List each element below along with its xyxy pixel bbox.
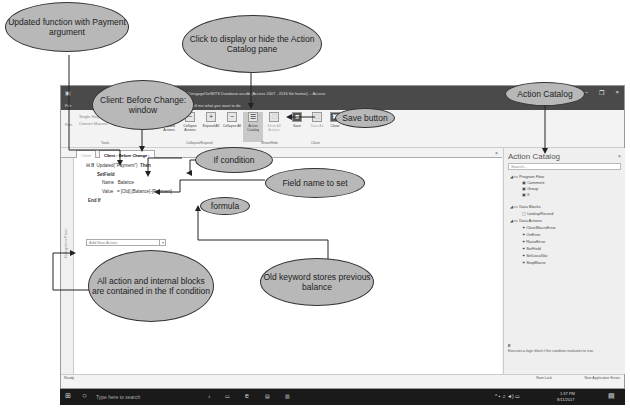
save-as-button[interactable]: □Save As bbox=[307, 112, 327, 128]
catalog-item-if[interactable]: ▣ If bbox=[522, 192, 529, 197]
callout-old-keyword: Old keyword stores previous balance bbox=[260, 258, 374, 306]
setfield-action[interactable]: SetField bbox=[97, 172, 115, 177]
catalog-item-group[interactable]: ▣ Group bbox=[522, 186, 538, 191]
catalog-description: Executes a logic block if the condition … bbox=[508, 349, 618, 354]
catalog-item-raiseerror[interactable]: ✦ RaiseError bbox=[522, 239, 545, 244]
minimize-button[interactable]: – bbox=[585, 89, 588, 95]
action-catalog-pane: Action Catalog × Search... ◢ ▭ Program F… bbox=[503, 148, 625, 374]
callout-field-name: Field name to set bbox=[265, 168, 365, 198]
close-tab-icon[interactable]: × bbox=[495, 150, 498, 156]
catalog-item-comment[interactable]: ▣ Comment bbox=[522, 180, 544, 185]
navigation-pane[interactable]: Navigation Pane bbox=[61, 158, 74, 374]
access-window: ▣ BITS Database : Database- C:\Cengage\5… bbox=[60, 85, 625, 389]
convert-macros-button[interactable]: Convert Macros bbox=[79, 121, 107, 126]
group-show-hide: Show/Hide bbox=[261, 141, 278, 145]
catalog-item-lookuprecord[interactable]: ▢ LookupRecord bbox=[522, 211, 553, 216]
value-argument: Value = [Old].[Balance]-[Payment] bbox=[102, 189, 172, 194]
file-explorer-icon[interactable]: ▤ bbox=[265, 393, 270, 399]
collapse-all-icon: − bbox=[227, 112, 237, 122]
name-value[interactable]: Balance bbox=[118, 180, 134, 185]
catalog-item-setlocalvar[interactable]: ✦ SetLocalVar bbox=[522, 253, 548, 258]
name-argument: Name Balance bbox=[102, 180, 134, 185]
callout-action-catalog: Action Catalog bbox=[505, 82, 585, 106]
task-view-icon[interactable]: ▭ bbox=[225, 393, 230, 399]
restore-button[interactable]: ❐ bbox=[599, 89, 604, 96]
notifications-icon[interactable]: ▤ bbox=[608, 392, 615, 400]
callout-formula: formula bbox=[200, 197, 250, 215]
collapse-all-button[interactable]: −Collapse All bbox=[222, 112, 242, 128]
save-as-icon: □ bbox=[312, 112, 322, 122]
add-new-action-dropdown[interactable]: Add New Action▾ bbox=[86, 239, 166, 246]
save-icon: ■ bbox=[292, 112, 302, 122]
tab-client-before-change[interactable]: Client : Before Change : bbox=[99, 150, 155, 158]
show-all-icon: □ bbox=[269, 112, 279, 122]
catalog-item-onerror[interactable]: ✦ OnError bbox=[522, 232, 540, 237]
file-tab[interactable]: File bbox=[65, 103, 71, 108]
status-bar: Ready Num Lock New Application Errors bbox=[61, 374, 624, 381]
close-window-button[interactable]: × bbox=[615, 89, 619, 95]
group-collapse-expand: Collapse/Expand bbox=[186, 141, 212, 145]
group-close: Close bbox=[311, 141, 320, 145]
section-data-blocks[interactable]: ◢ ▭ Data Blocks bbox=[510, 204, 541, 209]
callout-action-catalog-toggle: Click to display or hide the Action Cata… bbox=[182, 15, 322, 73]
status-app-errors[interactable]: New Application Errors bbox=[585, 376, 620, 380]
if-block-header[interactable]: ⊟ If Updated("Payment") Then bbox=[86, 163, 151, 168]
tell-me-box[interactable]: Tell me what you want to do bbox=[191, 103, 240, 108]
end-if: End If bbox=[88, 198, 101, 203]
start-icon[interactable]: ⊞ bbox=[65, 392, 71, 400]
catalog-item-clearmacroerror[interactable]: ✦ ClearMacroError bbox=[522, 225, 556, 230]
save-button[interactable]: ■Save bbox=[287, 112, 307, 128]
mic-icon[interactable]: ♪ bbox=[208, 393, 211, 399]
callout-all-contained: All action and internal blocks are conta… bbox=[88, 250, 214, 322]
catalog-search-input[interactable]: Search... bbox=[508, 163, 621, 170]
status-ready: Ready bbox=[64, 376, 74, 380]
show-all-actions-button[interactable]: □Show All Actions bbox=[264, 112, 284, 132]
value-formula[interactable]: = [Old].[Balance]-[Payment] bbox=[117, 189, 172, 194]
tab-client[interactable]: Client bbox=[76, 150, 96, 158]
callout-save-button: Save button bbox=[335, 108, 395, 128]
edge-icon[interactable]: e bbox=[245, 392, 249, 399]
system-tray-icons[interactable]: ^ ▪ ♫ ◄) ▭ bbox=[495, 393, 520, 399]
dropdown-arrow-icon[interactable]: ▾ bbox=[159, 240, 165, 245]
close-catalog-icon[interactable]: × bbox=[618, 153, 621, 159]
catalog-item-stopmacro[interactable]: ✦ StopMacro bbox=[522, 260, 545, 265]
section-data-actions[interactable]: ◢ ▭ Data Actions bbox=[510, 218, 542, 223]
catalog-item-setfield[interactable]: ✦ SetField bbox=[522, 246, 541, 251]
save-quick-icon[interactable]: ▣ bbox=[65, 89, 71, 96]
expand-all-icon: + bbox=[206, 112, 216, 122]
catalog-title: Action Catalog bbox=[508, 152, 560, 161]
access-taskbar-icon[interactable]: ▥ bbox=[285, 393, 290, 399]
taskbar: ⊞ ○ Type here to search ♪ ▭ e ▤ ▥ ^ ▪ ♫ … bbox=[60, 389, 625, 405]
document-tabs: Client Client : Before Change : × bbox=[61, 148, 502, 158]
action-catalog-button[interactable]: ☰Action Catalog bbox=[243, 112, 263, 142]
clock-time[interactable]: 1:37 PM bbox=[560, 391, 575, 396]
clock-date[interactable]: 8/11/2017 bbox=[557, 397, 575, 402]
group-tools: Tools bbox=[101, 141, 109, 145]
catalog-desc-title: If bbox=[508, 343, 510, 348]
section-program-flow[interactable]: ◢ ▭ Program Flow bbox=[510, 174, 544, 179]
callout-updated-function: Updated function with Payment argument bbox=[5, 2, 129, 52]
cortana-icon[interactable]: ○ bbox=[82, 391, 87, 400]
callout-client-window: Client: Before Change: window bbox=[92, 80, 194, 130]
if-condition[interactable]: Updated("Payment") bbox=[97, 163, 138, 168]
run-button[interactable]: Run bbox=[65, 122, 72, 127]
taskbar-search[interactable]: Type here to search bbox=[96, 394, 140, 400]
catalog-icon: ☰ bbox=[248, 112, 258, 122]
status-num-lock: Num Lock bbox=[536, 376, 552, 380]
callout-if-condition: If condition bbox=[195, 147, 273, 173]
expand-all-button[interactable]: +Expand All bbox=[201, 112, 221, 128]
